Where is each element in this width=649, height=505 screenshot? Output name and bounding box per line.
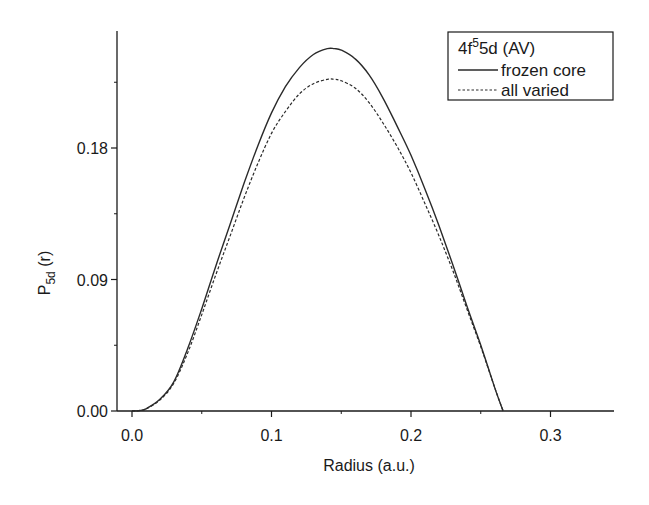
legend: 4f55d (AV) frozen core all varied	[448, 32, 613, 100]
x-tick-label: 0.2	[400, 427, 422, 444]
y-axis-title-sub: 5d	[44, 271, 58, 284]
x-tick-label: 0.3	[539, 427, 561, 444]
series-layer	[132, 48, 503, 411]
x-tick-label: 0.1	[260, 427, 282, 444]
svg-text:P5d (r): P5d (r)	[36, 251, 58, 295]
x-tick-label: 0.0	[121, 427, 143, 444]
legend-title: 4f55d (AV)	[458, 36, 535, 58]
x-axis-title: Radius (a.u.)	[323, 457, 415, 474]
y-axis-title-tail: (r)	[36, 251, 53, 271]
y-tick-label: 0.18	[77, 140, 108, 157]
y-tick-label: 0.09	[77, 272, 108, 289]
legend-entry-frozen-core: frozen core	[501, 61, 586, 80]
y-tick-label: 0.00	[77, 403, 108, 420]
legend-entry-all-varied: all varied	[501, 81, 569, 100]
series-frozen-core	[132, 48, 503, 411]
y-axis-title-main: P	[36, 285, 53, 296]
legend-title-main: 4f	[458, 39, 472, 58]
legend-title-tail: 5d (AV)	[479, 39, 535, 58]
chart: 0.000.090.180.00.10.20.3 Radius (a.u.) P…	[0, 0, 649, 505]
series-all-varied	[132, 79, 503, 411]
y-axis-title: P5d (r)	[36, 251, 58, 295]
